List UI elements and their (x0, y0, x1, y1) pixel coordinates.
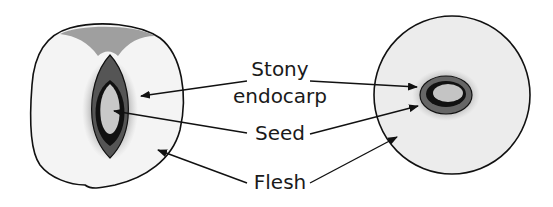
flesh-arrow-left (158, 150, 247, 183)
label-endocarp: endocarp (228, 84, 332, 108)
seed-right (433, 84, 463, 102)
longitudinal-section (30, 24, 183, 188)
flesh-arrow-right (310, 137, 397, 183)
transverse-section (374, 16, 530, 174)
label-flesh: Flesh (240, 170, 320, 194)
label-stony: Stony (240, 57, 320, 81)
label-seed: Seed (240, 121, 320, 145)
